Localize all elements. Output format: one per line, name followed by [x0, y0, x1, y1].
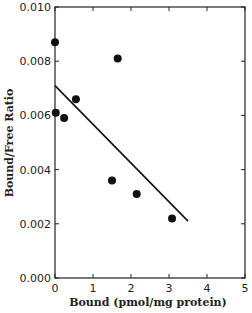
x-axis-ticks: 012345 [52, 7, 249, 295]
y-tick-label: 0.004 [20, 164, 52, 177]
scatter-chart: 0.0000.0020.0040.0060.0080.010 012345 Bo… [0, 0, 252, 313]
x-tick-label: 3 [166, 282, 173, 295]
data-point [60, 114, 68, 122]
y-tick-label: 0.006 [20, 109, 52, 122]
y-tick-label: 0.002 [20, 218, 52, 231]
x-tick-label: 2 [128, 282, 135, 295]
data-point [108, 176, 116, 184]
y-tick-label: 0.008 [20, 55, 52, 68]
plot-frame [55, 7, 245, 278]
y-tick-label: 0.000 [20, 272, 52, 285]
y-axis-title: Bound/Free Ratio [3, 89, 16, 198]
data-points [51, 38, 176, 222]
y-tick-label: 0.010 [20, 1, 52, 14]
data-point [72, 95, 80, 103]
x-tick-label: 0 [52, 282, 59, 295]
data-point [52, 109, 60, 117]
data-point [114, 54, 122, 62]
data-point [51, 38, 59, 46]
x-tick-label: 1 [90, 282, 97, 295]
x-tick-label: 4 [204, 282, 211, 295]
x-axis-title: Bound (pmol/mg protein) [69, 296, 227, 309]
x-tick-label: 5 [242, 282, 249, 295]
data-point [168, 214, 176, 222]
regression-line [55, 86, 188, 222]
data-point [133, 190, 141, 198]
